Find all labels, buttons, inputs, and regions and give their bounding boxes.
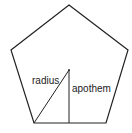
center-point bbox=[68, 69, 70, 71]
pentagon-diagram: radius apothem bbox=[0, 0, 132, 133]
radius-label: radius bbox=[32, 75, 59, 86]
apothem-label: apothem bbox=[72, 83, 111, 94]
